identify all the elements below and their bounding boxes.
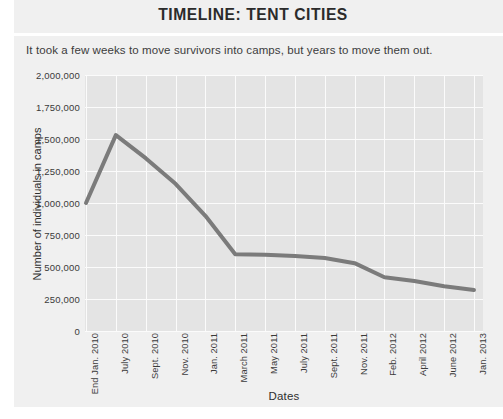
x-tick-label: Sept. 2010 (150, 333, 160, 379)
y-tick-label: 250,000 (4, 294, 80, 305)
x-tick-label: Jan. 2013 (478, 333, 488, 375)
x-tick-label: Jan. 2011 (209, 333, 219, 374)
x-tick-label: Nov. 2011 (359, 333, 369, 375)
x-tick-label: June 2012 (448, 333, 458, 377)
y-tick-label: 0 (4, 326, 80, 337)
chart-infographic: TIMELINE: TENT CITIES It took a few week… (0, 0, 503, 419)
chart-title: TIMELINE: TENT CITIES (33, 5, 473, 25)
x-tick-label: March 2011 (239, 333, 249, 382)
y-tick-label: 2,000,000 (4, 70, 80, 81)
y-tick-label: 500,000 (4, 262, 80, 273)
x-tick-label: July 2011 (299, 333, 309, 373)
y-tick-label: 1,000,000 (4, 198, 80, 209)
plot-area (85, 75, 483, 331)
x-tick-label: Sept. 2011 (329, 333, 339, 378)
y-tick-label: 750,000 (4, 230, 80, 241)
x-tick-label: Feb. 2012 (388, 333, 398, 376)
y-tick-label: 1,250,000 (4, 166, 80, 177)
y-tick-label: 1,500,000 (4, 134, 80, 145)
x-tick-label: April 2012 (418, 333, 428, 376)
x-tick-label: July 2010 (120, 333, 130, 374)
y-axis-ticks: 2,000,0001,750,0001,500,0001,250,0001,00… (0, 75, 80, 331)
x-tick-label: Nov. 2010 (180, 333, 190, 376)
x-tick-label: May 2011 (269, 333, 279, 374)
line-series (85, 75, 483, 331)
chart-subtitle: It took a few weeks to move survivors in… (26, 44, 491, 56)
x-tick-label: End Jan. 2010 (90, 333, 100, 394)
y-tick-label: 1,750,000 (4, 102, 80, 113)
x-axis-title: Dates (85, 390, 483, 402)
